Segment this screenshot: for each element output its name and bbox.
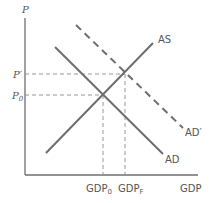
x-axis-label: GDP	[180, 183, 201, 194]
ad-label: AD	[165, 154, 180, 165]
gdpf-label: GDPF	[118, 183, 144, 196]
as-label: AS	[158, 34, 171, 45]
ad-prime-label: AD′	[185, 127, 203, 138]
y-axis-label: P	[21, 4, 29, 15]
gdp0-label: GDP0	[86, 183, 112, 196]
ad-as-diagram: P GDP P′ P0 GDP0 GDPF AS AD AD′	[0, 0, 217, 203]
as-curve	[46, 43, 153, 153]
ad-curve	[55, 47, 163, 154]
p0-label: P0	[11, 90, 24, 103]
p-prime-label: P′	[12, 69, 23, 80]
